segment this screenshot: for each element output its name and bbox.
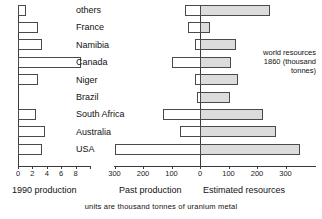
tick-1990-10 xyxy=(90,166,91,169)
bar-1990-production-others xyxy=(18,5,26,16)
left-panel-category-axis xyxy=(18,166,90,167)
bar-past-production-usa xyxy=(115,144,202,155)
bar-1990-production-france xyxy=(18,22,38,33)
tick-label-right-100-left: 100 xyxy=(165,170,178,178)
tick-label-1990-4: 4 xyxy=(45,170,49,178)
bar-1990-production-niger xyxy=(18,74,38,85)
annotation-line-1: world resources xyxy=(263,48,316,57)
bar-estimated-resources-usa xyxy=(200,144,300,155)
axis-title-estimated-resources: Estimated resources xyxy=(203,185,285,195)
bar-1990-production-usa xyxy=(18,144,42,155)
tick-label-right-300-left: 300 xyxy=(108,170,121,178)
bar-past-production-australia xyxy=(180,126,201,137)
tick-label-right-100-right: 100 xyxy=(222,170,235,178)
category-label-canada: Canada xyxy=(76,57,108,67)
category-label-namibia: Namibia xyxy=(76,40,109,50)
category-label-usa: USA xyxy=(76,144,95,154)
bar-estimated-resources-canada xyxy=(200,57,231,68)
chart-caption: units are thousand tonnes of uranium met… xyxy=(0,202,322,211)
category-label-australia: Australia xyxy=(76,127,111,137)
bar-estimated-resources-south-africa xyxy=(200,109,263,120)
tick-label-right-0-right: 0 xyxy=(198,170,202,178)
axis-title-past-production: Past production xyxy=(119,185,182,195)
bar-1990-production-south-africa xyxy=(18,109,36,120)
category-label-niger: Niger xyxy=(76,75,98,85)
annotation-line-2: 1860 (thousand xyxy=(263,57,316,66)
tick-label-1990-6: 6 xyxy=(59,170,63,178)
bar-estimated-resources-niger xyxy=(200,74,238,85)
tick-label-1990-8: 8 xyxy=(74,170,78,178)
bar-past-production-canada xyxy=(172,57,202,68)
category-label-others: others xyxy=(76,5,101,15)
tick-label-right-200-right: 200 xyxy=(251,170,264,178)
bar-past-production-others xyxy=(185,5,201,16)
bar-estimated-resources-australia xyxy=(200,126,276,137)
bar-estimated-resources-brazil xyxy=(200,92,230,103)
category-label-brazil: Brazil xyxy=(76,92,99,102)
bar-1990-production-australia xyxy=(18,126,45,137)
bar-past-production-south-africa xyxy=(163,109,201,120)
world-resources-annotation: world resources 1860 (thousand tonnes) xyxy=(263,48,316,75)
annotation-line-3: tonnes) xyxy=(263,66,316,75)
bar-estimated-resources-france xyxy=(200,22,210,33)
bar-estimated-resources-namibia xyxy=(200,39,236,50)
tick-label-1990-2: 2 xyxy=(30,170,34,178)
tick-label-right-200-left: 200 xyxy=(137,170,150,178)
category-label-south-africa: South Africa xyxy=(76,109,125,119)
axis-title-1990-production: 1990 production xyxy=(12,185,77,195)
bar-1990-production-canada xyxy=(18,57,81,68)
bar-1990-production-namibia xyxy=(18,39,42,50)
bar-estimated-resources-others xyxy=(200,5,270,16)
tick-label-right-300-right: 300 xyxy=(279,170,292,178)
category-label-france: France xyxy=(76,22,104,32)
tick-label-1990-0: 0 xyxy=(16,170,20,178)
chart-root: 02468 3002001000100200300 world resource… xyxy=(0,0,322,219)
